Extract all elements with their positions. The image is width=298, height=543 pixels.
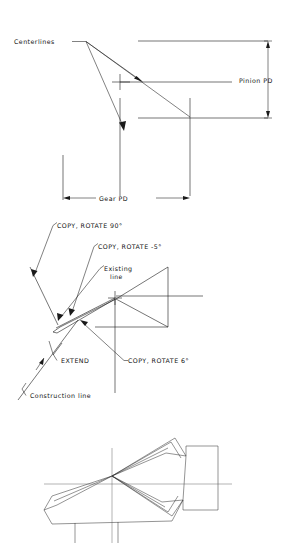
triangle-lower-edge bbox=[116, 299, 168, 327]
copy-rotate-6-leader bbox=[83, 323, 124, 361]
lower-flank-cap2 bbox=[162, 500, 183, 502]
lower-flank-inner bbox=[112, 476, 165, 507]
flank-cap-left-b bbox=[53, 332, 57, 333]
existing-line-arrow bbox=[57, 313, 64, 321]
copy-rotate-6-label: COPY, ROTATE 6° bbox=[128, 357, 189, 364]
extend-leader-tick bbox=[53, 354, 57, 361]
upper-flank-mid bbox=[112, 442, 171, 476]
copy-rotate-90-label: COPY, ROTATE 90° bbox=[57, 222, 123, 229]
hub-inner-edge bbox=[183, 456, 186, 500]
centerlines-leader-b bbox=[86, 42, 123, 127]
existing-line-label-1: Existing bbox=[104, 265, 133, 273]
copy-rotate-minus5-label: COPY, ROTATE -5° bbox=[98, 243, 162, 250]
middle-diagram: COPY, ROTATE 90° COPY, ROTATE -5° Existi… bbox=[0, 215, 298, 415]
copy-rotate-minus5-arrow bbox=[69, 308, 76, 316]
gear-pd-label: Gear PD bbox=[99, 195, 128, 202]
copy-rotate-minus5-leader bbox=[72, 247, 94, 313]
pinion-pd-arrow-top bbox=[266, 41, 270, 48]
construction-line-leader bbox=[22, 383, 26, 389]
copy-rotate-90-line bbox=[30, 267, 58, 325]
upper-flank-rib bbox=[171, 442, 181, 458]
flank-line-inner bbox=[60, 299, 116, 327]
pinion-pd-label: Pinion PD bbox=[239, 77, 273, 84]
bottom-diagram bbox=[0, 428, 298, 543]
pinion-pd-arrow-bottom bbox=[266, 111, 270, 118]
existing-line-label-2: line bbox=[110, 273, 123, 280]
left-flank-inner bbox=[57, 476, 112, 505]
lower-flank-inner2 bbox=[112, 476, 162, 502]
left-flank-mid bbox=[54, 476, 112, 501]
extend-label: EXTEND bbox=[61, 357, 89, 364]
upper-flank-cap bbox=[175, 438, 186, 456]
upper-flank-inner2 bbox=[112, 453, 166, 476]
upper-flank-cap2 bbox=[166, 453, 186, 456]
copy-rotate-90-leader bbox=[35, 226, 53, 274]
upper-flank-inner bbox=[112, 448, 168, 476]
copy-rotate-6-arrow bbox=[80, 320, 88, 326]
centerlines-leader-c bbox=[86, 42, 190, 118]
left-flank-cap2 bbox=[44, 505, 57, 510]
gear-pd-arrow-left bbox=[63, 196, 70, 200]
extend-leader bbox=[49, 341, 53, 354]
left-flank-cap bbox=[44, 496, 52, 510]
extend-line bbox=[53, 343, 62, 355]
left-flank-outer bbox=[52, 476, 112, 496]
construction-line-label: Construction line bbox=[30, 392, 91, 399]
gear-pd-arrow-right bbox=[183, 196, 190, 200]
centerlines-label: Centerlines bbox=[14, 38, 55, 45]
lower-flank-cap bbox=[172, 500, 183, 516]
body-left-edge bbox=[44, 510, 52, 524]
lower-flank-mid bbox=[112, 476, 168, 512]
top-diagram: Pinion PD Gear PD Centerlines bbox=[0, 0, 298, 215]
